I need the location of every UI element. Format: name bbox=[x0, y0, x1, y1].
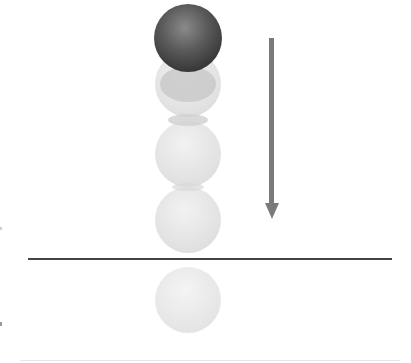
left-mark-2 bbox=[0, 322, 2, 326]
ghost-ball-3 bbox=[155, 121, 221, 187]
bottom-border bbox=[20, 360, 400, 361]
left-mark-1 bbox=[0, 227, 2, 230]
diagram-canvas bbox=[0, 0, 411, 363]
down-arrow-shaft bbox=[269, 38, 274, 204]
reflection-ball bbox=[155, 267, 221, 333]
ground-line bbox=[28, 258, 392, 260]
ghost-ball-4 bbox=[155, 187, 221, 253]
overlap-shade-3-4 bbox=[172, 183, 204, 191]
solid-ball bbox=[154, 4, 222, 72]
overlap-shade-2-3 bbox=[168, 114, 208, 126]
down-arrow-icon bbox=[265, 203, 279, 219]
